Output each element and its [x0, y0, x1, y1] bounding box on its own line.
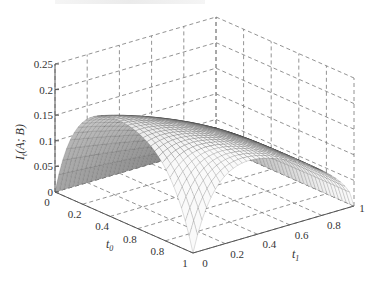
- t1-tick-label: 0.8: [327, 219, 341, 231]
- z-tick-label: 0.15: [34, 109, 54, 121]
- t1-tick-label: 0.6: [295, 229, 309, 241]
- t0-tick-label: 0.2: [68, 208, 82, 220]
- t1-axis-label: t1: [292, 247, 299, 263]
- z-tick-label: 0.05: [34, 160, 54, 172]
- z-tick-label: 0.2: [39, 84, 53, 96]
- z-tick-label: 0.1: [39, 135, 53, 147]
- t0-tick-label: 0.4: [95, 220, 109, 232]
- t1-tick-label: 1: [359, 202, 365, 214]
- t1-tick-label: 0: [202, 257, 208, 269]
- z-axis-label: It(A; B): [13, 124, 29, 161]
- t1-tick-label: 0.4: [263, 238, 277, 250]
- t0-axis-label: t0: [106, 237, 113, 253]
- surface-plot: 00.050.10.150.20.2500.20.40.80.8100.20.4…: [0, 0, 375, 283]
- t0-tick-label: 0.8: [123, 233, 137, 245]
- t0-tick-label: 1: [182, 257, 188, 269]
- z-tick-label: 0.25: [34, 58, 54, 70]
- t1-tick-label: 0.2: [230, 248, 244, 260]
- t0-tick-label: 0: [44, 196, 50, 208]
- t0-tick-label: 0.8: [151, 245, 165, 257]
